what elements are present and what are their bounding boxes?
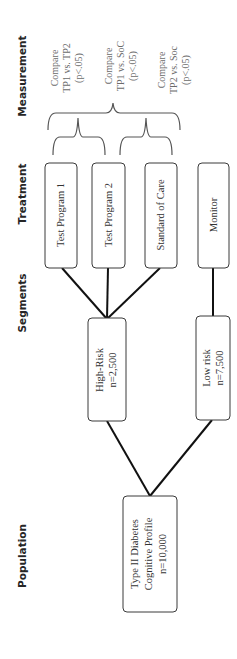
treatment-label: Test Program 1	[55, 183, 66, 247]
measurement-line: (p<.05)	[180, 55, 192, 85]
header-treatment: Treatment	[16, 164, 28, 225]
measurement-tp1-vs-soc: Compare TP1 vs. SoC (p<.05)	[103, 41, 139, 92]
measurement-line: (p<.05)	[73, 53, 85, 83]
header-segments: Segments	[16, 273, 28, 332]
diagram-canvas: Measurement Treatment Segments Populatio…	[0, 0, 237, 659]
measurement-tp1-vs-tp2: Compare TP1 vs. TP2 (p<.05)	[49, 43, 85, 93]
measurement-line: (p<.05)	[127, 51, 139, 81]
measurement-tp2-vs-soc: Compare TP2 vs. Soc (p<.05)	[156, 45, 192, 94]
treatment-label: Monitor	[208, 197, 219, 232]
segment-label: Low risk	[201, 348, 212, 386]
connector-highrisk-tp1	[62, 268, 107, 319]
measurement-line: TP1 vs. SoC	[115, 41, 126, 92]
treatment-test-program-1: Test Program 1	[45, 163, 77, 268]
connector-highrisk-tp2	[107, 268, 108, 319]
measurement-line: TP2 vs. Soc	[168, 45, 179, 94]
segment-high-risk: High-Risk n=2,500	[88, 318, 126, 421]
segment-count: n=7,500	[214, 351, 225, 386]
connector-population-highrisk	[107, 421, 150, 496]
segment-low-risk: Low risk n=7,500	[196, 316, 230, 420]
segment-count: n=2,500	[107, 353, 118, 388]
measurement-line: Compare	[49, 49, 60, 86]
treatment-test-program-2: Test Program 2	[92, 163, 125, 268]
study-design-diagram: Measurement Treatment Segments Populatio…	[0, 0, 237, 659]
header-population: Population	[16, 524, 28, 588]
treatment-label: Test Program 2	[103, 183, 114, 247]
connector-highrisk-soc	[107, 268, 160, 319]
measurement-line: Compare	[156, 51, 167, 88]
header-measurement: Measurement	[16, 35, 28, 116]
brace-tp2-soc	[120, 118, 172, 155]
connector-population-lowrisk	[150, 420, 212, 496]
segment-label: High-Risk	[94, 347, 105, 392]
population-line-1: Type II Diabetes	[129, 519, 140, 589]
treatment-label: Standard of Care	[155, 179, 166, 250]
brace-tp1-tp2	[53, 118, 105, 155]
measurement-line: TP1 vs. TP2	[61, 43, 72, 93]
population-line-3: n=10,000	[157, 534, 168, 574]
treatment-monitor: Monitor	[198, 163, 229, 268]
measurement-line: Compare	[103, 47, 114, 84]
brace-tp1-soc	[48, 103, 180, 130]
population-box-group: Type II Diabetes Cognitive Profile n=10,…	[123, 496, 177, 612]
population-line-2: Cognitive Profile	[143, 517, 154, 590]
treatment-standard-of-care: Standard of Care	[145, 163, 177, 268]
